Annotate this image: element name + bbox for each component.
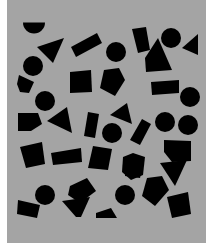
circle-shape — [35, 91, 55, 111]
quadrilateral-shape — [71, 33, 102, 57]
polygon-shape — [164, 140, 191, 162]
polygon-shape — [100, 68, 125, 96]
triangle-shape — [37, 38, 64, 63]
circle-shape — [115, 185, 135, 205]
semicircle-shape — [23, 23, 45, 34]
quadrilateral-shape — [167, 192, 191, 218]
triangle-shape — [182, 34, 198, 55]
quadrilateral-shape — [70, 70, 92, 93]
quadrilateral-shape — [88, 146, 112, 170]
quadrilateral-shape — [151, 80, 179, 95]
quadrilateral-shape — [96, 208, 117, 218]
circle-shape — [23, 56, 43, 76]
circle-shape — [106, 42, 126, 62]
stimulus-image — [0, 0, 219, 243]
polygon-shape — [18, 113, 42, 131]
polygon-shape — [17, 75, 34, 93]
quadrilateral-shape — [132, 27, 150, 53]
circle-shape — [155, 112, 175, 132]
triangle-shape — [110, 103, 132, 124]
shapes-layer — [0, 0, 219, 243]
circle-shape — [178, 115, 198, 135]
quadrilateral-shape — [84, 112, 99, 138]
quadrilateral-shape — [51, 148, 82, 165]
quadrilateral-shape — [62, 197, 90, 217]
circle-shape — [35, 185, 55, 205]
quadrilateral-shape — [130, 119, 151, 145]
circle-shape — [180, 87, 200, 107]
triangle-shape — [47, 107, 72, 133]
circle-shape — [161, 28, 181, 48]
quadrilateral-shape — [17, 200, 40, 218]
circle-shape — [102, 123, 122, 143]
polygon-shape — [142, 176, 169, 206]
quadrilateral-shape — [20, 142, 45, 168]
